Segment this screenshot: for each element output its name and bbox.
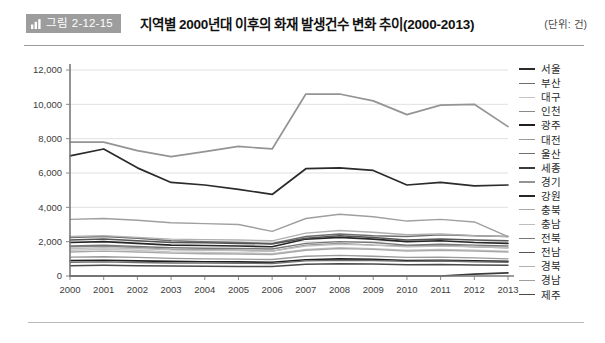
legend-label: 충남 [541, 217, 561, 231]
legend-swatch-icon [519, 238, 535, 239]
legend-swatch-icon [519, 209, 535, 210]
chart-series-group [70, 94, 508, 276]
legend-swatch-icon [519, 195, 535, 197]
x-axis-tick-label: 2003 [161, 284, 182, 295]
legend-swatch-icon [519, 83, 535, 84]
x-axis-tick-label: 2008 [329, 284, 350, 295]
legend-item-세종[interactable]: 세종 [519, 161, 605, 175]
figure-page: 그림 2-12-15 지역별 2000년대 이후의 화재 발생건수 변화 추이(… [0, 0, 605, 343]
legend-item-경기[interactable]: 경기 [519, 175, 605, 189]
legend-item-제주[interactable]: 제주 [519, 288, 605, 302]
legend-label: 세종 [541, 161, 561, 175]
x-axis-tick-label: 2005 [228, 284, 249, 295]
x-axis-tick-label: 2013 [497, 284, 518, 295]
legend-item-전북[interactable]: 전북 [519, 231, 605, 245]
legend-item-대구[interactable]: 대구 [519, 90, 605, 104]
x-axis-tick-label: 2004 [194, 284, 215, 295]
legend-item-충남[interactable]: 충남 [519, 217, 605, 231]
legend-item-경남[interactable]: 경남 [519, 273, 605, 287]
series-line-경기 [70, 94, 508, 157]
x-axis-ticks: 2000200120022003200420052006200720082009… [59, 276, 518, 295]
x-axis-tick-label: 2006 [262, 284, 283, 295]
legend-label: 대구 [541, 90, 561, 104]
y-axis-tick-label: 12,000 [33, 64, 62, 75]
legend-item-강원[interactable]: 강원 [519, 189, 605, 203]
series-line-제주 [70, 264, 508, 267]
x-axis-tick-label: 2010 [396, 284, 417, 295]
legend-swatch-icon [519, 139, 535, 140]
x-axis-tick-label: 2009 [363, 284, 384, 295]
y-axis-tick-label: 2,000 [38, 236, 62, 247]
legend-swatch-icon [519, 224, 535, 225]
legend-swatch-icon [519, 124, 535, 126]
x-axis-tick-label: 2011 [430, 284, 450, 295]
legend-label: 서울 [541, 62, 561, 76]
x-axis-tick-label: 2007 [295, 284, 316, 295]
legend-item-인천[interactable]: 인천 [519, 104, 605, 118]
legend-swatch-icon [519, 266, 535, 267]
legend-label: 부산 [541, 76, 561, 90]
legend-swatch-icon [519, 294, 535, 295]
series-line-경남 [70, 214, 508, 236]
x-axis-tick-label: 2001 [93, 284, 114, 295]
legend-swatch-icon [519, 252, 535, 253]
legend-item-대전[interactable]: 대전 [519, 132, 605, 146]
legend-item-부산[interactable]: 부산 [519, 76, 605, 90]
chart-legend: 서울부산대구인천광주대전울산세종경기강원충북충남전북전남경북경남제주 [519, 62, 605, 302]
legend-item-충북[interactable]: 충북 [519, 203, 605, 217]
figure-title: 지역별 2000년대 이후의 화재 발생건수 변화 추이(2000-2013) [140, 13, 474, 33]
y-axis-tick-label: 4,000 [38, 202, 62, 213]
legend-label: 경기 [541, 175, 561, 189]
legend-item-전남[interactable]: 전남 [519, 245, 605, 259]
legend-label: 제주 [541, 288, 561, 302]
x-axis-tick-label: 2002 [127, 284, 148, 295]
legend-swatch-icon [519, 181, 535, 183]
legend-item-경북[interactable]: 경북 [519, 259, 605, 273]
bar-chart-icon [30, 18, 42, 30]
legend-item-울산[interactable]: 울산 [519, 147, 605, 161]
figure-number-label: 그림 2-12-15 [46, 14, 113, 33]
legend-swatch-icon [519, 68, 535, 70]
legend-label: 인천 [541, 104, 561, 118]
legend-label: 광주 [541, 118, 561, 132]
legend-swatch-icon [519, 167, 535, 169]
legend-label: 강원 [541, 189, 561, 203]
legend-swatch-icon [519, 280, 535, 281]
y-axis-tick-label: 6,000 [38, 167, 62, 178]
legend-label: 전남 [541, 245, 561, 259]
footer-divider [28, 322, 584, 323]
legend-label: 경북 [541, 259, 561, 273]
legend-swatch-icon [519, 111, 535, 112]
header-divider [24, 45, 584, 46]
series-line-서울 [70, 149, 508, 194]
series-line-대전 [70, 255, 508, 259]
chart-canvas: 02,0004,0006,0008,00010,00012,000 200020… [0, 58, 605, 308]
legend-label: 대전 [541, 133, 561, 147]
legend-label: 울산 [541, 147, 561, 161]
legend-item-광주[interactable]: 광주 [519, 118, 605, 132]
legend-swatch-icon [519, 97, 535, 98]
figure-unit-note: (단위: 건) [544, 16, 587, 31]
legend-item-서울[interactable]: 서울 [519, 62, 605, 76]
y-axis-ticks: 02,0004,0006,0008,00010,00012,000 [33, 64, 70, 281]
legend-label: 전북 [541, 231, 561, 245]
y-axis-tick-label: 8,000 [38, 133, 62, 144]
line-chart: 02,0004,0006,0008,00010,00012,000 200020… [0, 58, 605, 308]
y-axis-tick-label: 0 [57, 270, 62, 281]
x-axis-tick-label: 2012 [464, 284, 485, 295]
legend-label: 충북 [541, 203, 561, 217]
legend-swatch-icon [519, 153, 535, 154]
x-axis-tick-label: 2000 [59, 284, 80, 295]
figure-number-badge: 그림 2-12-15 [26, 14, 121, 33]
legend-label: 경남 [541, 273, 561, 287]
y-axis-tick-label: 10,000 [33, 99, 62, 110]
figure-header: 그림 2-12-15 지역별 2000년대 이후의 화재 발생건수 변화 추이(… [0, 14, 605, 46]
